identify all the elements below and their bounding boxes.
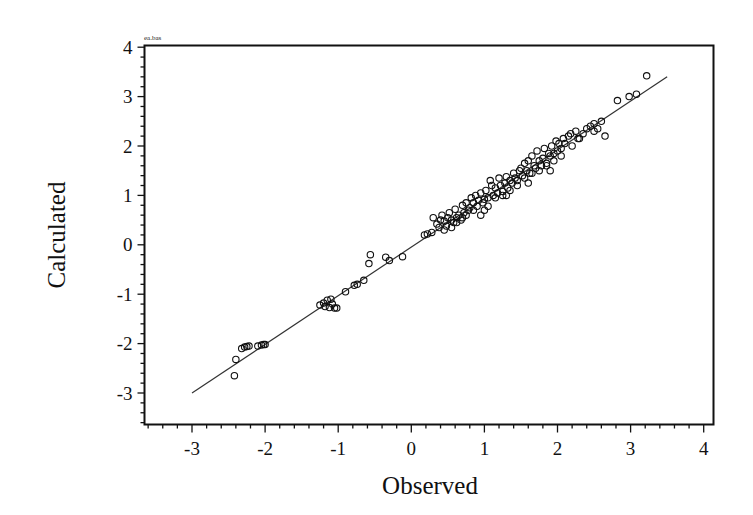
y-tick-label: -1 <box>117 284 133 305</box>
y-tick-label: 1 <box>123 185 133 206</box>
data-point <box>525 180 531 186</box>
data-point <box>503 173 509 179</box>
x-tick-label: 0 <box>407 438 417 459</box>
x-tick-label: 2 <box>553 438 563 459</box>
data-point <box>452 206 458 212</box>
scatter-chart: ea.bas -3-2-101234 -3-2-101234 Observed … <box>0 0 753 515</box>
data-point <box>399 253 405 259</box>
y-tick-label: 4 <box>123 37 133 58</box>
data-point <box>547 168 553 174</box>
data-point <box>483 187 489 193</box>
data-point <box>534 148 540 154</box>
x-axis-title: Observed <box>382 472 478 499</box>
data-point <box>485 203 491 209</box>
x-tick-label: 4 <box>699 438 709 459</box>
x-tick-label: -1 <box>330 438 346 459</box>
data-point <box>231 373 237 379</box>
data-point <box>602 133 608 139</box>
data-point <box>614 97 620 103</box>
chart-title: ea.bas <box>144 34 162 42</box>
data-point <box>233 356 239 362</box>
y-tick-label: -3 <box>117 383 133 404</box>
y-axis: -3-2-101234 <box>117 37 145 423</box>
y-axis-title: Calculated <box>43 181 70 288</box>
x-tick-label: 1 <box>480 438 490 459</box>
x-tick-label: -3 <box>184 438 200 459</box>
data-point <box>643 73 649 79</box>
data-point <box>551 158 557 164</box>
data-points <box>231 73 650 379</box>
data-point <box>633 91 639 97</box>
data-point <box>558 153 564 159</box>
data-point <box>496 175 502 181</box>
data-point <box>569 143 575 149</box>
x-tick-label: -2 <box>257 438 273 459</box>
y-tick-label: 3 <box>123 86 133 107</box>
data-point <box>366 260 372 266</box>
y-tick-label: 2 <box>123 136 133 157</box>
x-axis: -3-2-101234 <box>148 425 709 459</box>
y-tick-label: 0 <box>123 234 133 255</box>
data-point <box>626 93 632 99</box>
data-point <box>367 251 373 257</box>
x-tick-label: 3 <box>626 438 636 459</box>
data-point <box>430 214 436 220</box>
y-tick-label: -2 <box>117 333 133 354</box>
data-point <box>529 153 535 159</box>
data-point <box>481 207 487 213</box>
